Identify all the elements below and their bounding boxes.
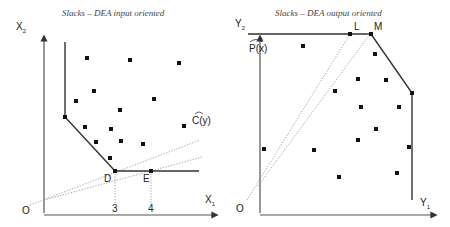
- point-d-label: D: [104, 173, 111, 184]
- tick-3-label: 3: [112, 203, 118, 214]
- left-title: Slacks – DEA input oriented: [62, 8, 165, 18]
- y1-axis-label: Y1: [420, 197, 431, 210]
- ray-line-l: [247, 34, 350, 200]
- dea-slacks-diagram: Slacks – DEA input oriented X2 X1 O: [0, 0, 450, 227]
- ray-line-m: [258, 34, 370, 186]
- right-title: Slacks – DEA output oriented: [275, 8, 382, 18]
- tick-4-label: 4: [148, 203, 154, 214]
- point-e-label: E: [143, 173, 150, 184]
- x1-axis-label: X1: [205, 194, 216, 207]
- x2-axis-label: X2: [16, 21, 27, 34]
- right-panel-output-oriented: Slacks – DEA output oriented Y2 Y1 O: [235, 8, 434, 215]
- left-origin-label: O: [22, 205, 30, 216]
- point-l-label: L: [354, 21, 360, 32]
- point-m-label: M: [374, 21, 382, 32]
- left-data-points: [63, 56, 186, 173]
- y2-axis-label: Y2: [235, 18, 246, 31]
- hat-accent-icon: [195, 112, 203, 114]
- right-origin-label: O: [236, 203, 244, 214]
- ray-line-2: [44, 157, 202, 200]
- frontier-p-label: P(x): [249, 43, 267, 54]
- output-frontier: [248, 34, 412, 200]
- left-panel-input-oriented: Slacks – DEA input oriented X2 X1 O: [16, 8, 216, 216]
- frontier-c-label: C(y): [192, 115, 211, 126]
